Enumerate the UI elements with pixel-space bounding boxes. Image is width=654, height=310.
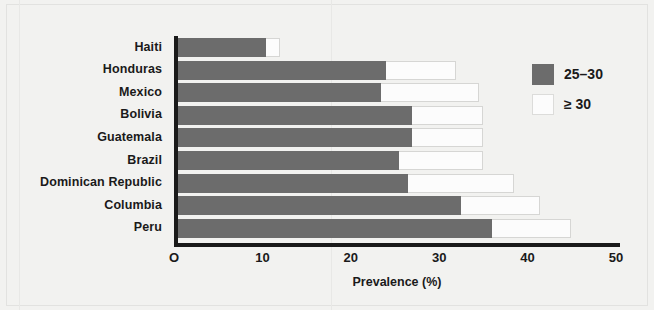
category-label-honduras: Honduras — [0, 62, 168, 76]
bar-segment-ge-30 — [408, 174, 514, 193]
category-label-haiti: Haiti — [0, 40, 168, 54]
category-label-brazil: Brazil — [0, 153, 168, 167]
legend-swatch-ge-30 — [532, 94, 554, 115]
category-label-bolivia: Bolivia — [0, 107, 168, 121]
legend-label-25-30: 25–30 — [564, 66, 603, 82]
chart-figure: Haiti Honduras Mexico Bolivia Guatemala … — [0, 0, 654, 310]
category-label-mexico: Mexico — [0, 85, 168, 99]
bar-segment-25-30 — [178, 83, 381, 102]
bar-segment-25-30 — [178, 219, 492, 238]
category-label-guatemala: Guatemala — [0, 130, 168, 144]
x-tick-label-50: 50 — [609, 250, 623, 265]
bar-segment-ge-30 — [492, 219, 572, 238]
bar-segment-25-30 — [178, 151, 399, 170]
x-axis-line — [174, 243, 620, 247]
x-tick-label-40: 40 — [520, 250, 534, 265]
x-tick-label-30: 30 — [432, 250, 446, 265]
x-axis-title: Prevalence (%) — [174, 275, 620, 289]
bar-segment-ge-30 — [461, 196, 541, 215]
x-tick-label-0: O — [169, 250, 179, 265]
legend-item-ge-30: ≥ 30 — [532, 94, 632, 124]
bar-segment-25-30 — [178, 61, 386, 80]
bar-segment-ge-30 — [412, 106, 483, 125]
chart-legend: 25–30 ≥ 30 — [532, 64, 632, 124]
bar-segment-25-30 — [178, 38, 266, 57]
bar-segment-25-30 — [178, 196, 461, 215]
legend-item-25-30: 25–30 — [532, 64, 632, 94]
category-label-columbia: Columbia — [0, 198, 168, 212]
plot-area: Haiti Honduras Mexico Bolivia Guatemala … — [0, 0, 654, 310]
category-label-peru: Peru — [0, 220, 168, 234]
category-label-dominican-republic: Dominican Republic — [0, 175, 168, 189]
bar-segment-ge-30 — [381, 83, 478, 102]
legend-swatch-25-30 — [532, 64, 554, 85]
x-tick-label-20: 20 — [344, 250, 358, 265]
bar-segment-ge-30 — [266, 38, 279, 57]
bar-segment-ge-30 — [386, 61, 457, 80]
bar-segment-25-30 — [178, 106, 412, 125]
bar-segment-25-30 — [178, 174, 408, 193]
legend-label-ge-30: ≥ 30 — [564, 96, 591, 112]
bar-segment-ge-30 — [399, 151, 483, 170]
x-tick-label-10: 10 — [255, 250, 269, 265]
bar-segment-ge-30 — [412, 128, 483, 147]
bar-segment-25-30 — [178, 128, 412, 147]
